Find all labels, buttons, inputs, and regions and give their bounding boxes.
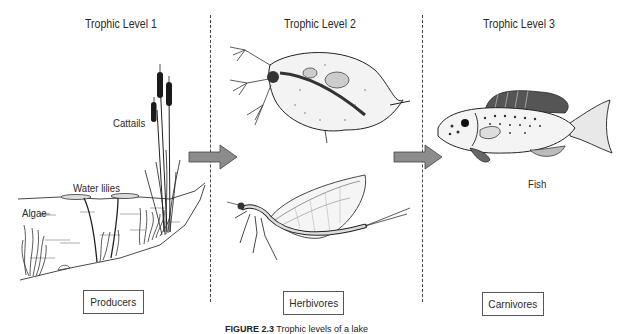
label-algae: Algae <box>22 207 47 219</box>
trophic-level-3-title: Trophic Level 3 <box>483 17 555 31</box>
pond-producers-illustration <box>0 0 210 290</box>
trophic-level-2-title: Trophic Level 2 <box>284 17 356 31</box>
category-carnivores-label: Carnivores <box>489 298 538 310</box>
category-box-carnivores: Carnivores <box>482 292 544 316</box>
water-flea-illustration <box>225 35 415 145</box>
fish-illustration <box>430 88 620 178</box>
category-box-producers: Producers <box>83 290 144 314</box>
label-water-lilies: Water lilies <box>73 182 120 194</box>
category-herbivores-label: Herbivores <box>289 297 338 309</box>
arrow-level2-to-level3 <box>393 143 445 171</box>
category-producers-label: Producers <box>90 296 136 308</box>
figure-caption: FIGURE 2.3 Trophic levels of a lake <box>225 324 368 334</box>
figure-number: FIGURE 2.3 <box>225 324 274 334</box>
category-box-herbivores: Herbivores <box>283 291 344 315</box>
mayfly-illustration <box>225 178 420 288</box>
label-cattails: Cattails <box>113 117 145 129</box>
label-fish: Fish <box>528 178 546 190</box>
figure-caption-text: Trophic levels of a lake <box>276 324 368 334</box>
arrow-level1-to-level2 <box>188 143 240 171</box>
